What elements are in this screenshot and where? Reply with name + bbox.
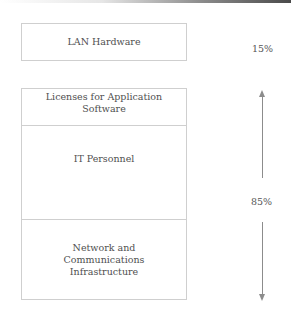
- licenses-label: Licenses for Application Software: [44, 91, 164, 115]
- lan-hardware-percentage: 15%: [252, 43, 273, 54]
- lan-hardware-box: LAN Hardware: [21, 23, 187, 61]
- network-infrastructure-segment: Network and Communications Infrastructur…: [22, 220, 186, 299]
- network-label-line-2: Communications: [64, 254, 145, 266]
- arrow-down-shaft: [262, 222, 263, 296]
- network-label-line-1: Network and: [64, 242, 145, 254]
- network-label-line-3: Infrastructure: [64, 266, 145, 278]
- licenses-segment: Licenses for Application Software: [22, 89, 186, 126]
- it-personnel-label: IT Personnel: [74, 153, 135, 165]
- cost-stack-box: Licenses for Application Software IT Per…: [21, 88, 187, 300]
- it-personnel-segment: IT Personnel: [22, 126, 186, 220]
- arrow-up-shaft: [262, 94, 263, 178]
- arrow-down-icon: [259, 294, 265, 301]
- remaining-percentage: 85%: [251, 196, 272, 207]
- lan-hardware-label: LAN Hardware: [67, 36, 140, 48]
- scan-edge-strip: [0, 0, 291, 3]
